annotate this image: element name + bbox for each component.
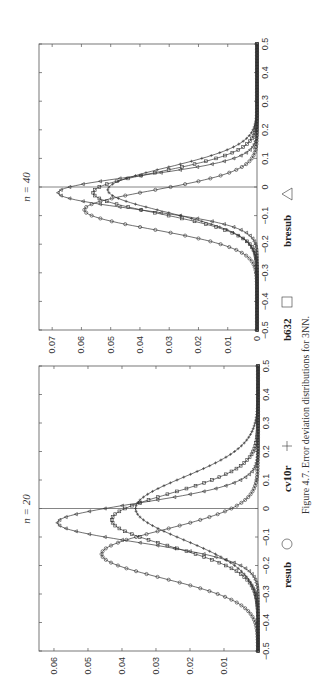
legend-square-icon xyxy=(282,297,292,307)
x-tick-label: −0.4 xyxy=(260,293,270,311)
y-tick-label: 0.05 xyxy=(106,336,116,354)
y-tick-label: 0.01 xyxy=(223,336,233,354)
y-tick-label: 0.05 xyxy=(83,657,93,675)
x-tick-label: 0.4 xyxy=(261,388,271,401)
panel-n40: −0.5−0.4−0.3−0.2−0.100.10.20.30.40.500.0… xyxy=(39,38,270,354)
y-tick-label: 0.01 xyxy=(219,657,229,675)
y-tick-label: 0.04 xyxy=(117,657,127,675)
y-tick-label: 0.06 xyxy=(49,657,59,675)
figure-caption: Figure 4.7. Error deviation distribution… xyxy=(300,316,311,514)
y-tick-label: 0.03 xyxy=(151,657,161,675)
x-tick-label: −0.4 xyxy=(261,614,271,632)
x-tick-label: 0.3 xyxy=(261,417,271,430)
x-tick-label: −0.1 xyxy=(261,528,271,546)
x-tick-label: 0.2 xyxy=(260,124,270,137)
x-tick-label: 0.3 xyxy=(260,95,270,108)
x-tick-label: 0.4 xyxy=(260,66,270,79)
x-tick-label: −0.1 xyxy=(260,207,270,225)
legend-triangle-icon xyxy=(282,188,292,200)
x-tick-label: −0.3 xyxy=(260,264,270,282)
x-tick-label: 0.5 xyxy=(261,360,271,373)
x-tick-label: 0.1 xyxy=(260,152,270,165)
x-tick-label: 0 xyxy=(260,184,270,189)
y-tick-label: 0.07 xyxy=(47,336,57,354)
x-tick-label: −0.3 xyxy=(261,585,271,603)
x-tick-label: 0.1 xyxy=(261,474,271,487)
x-tick-label: −0.5 xyxy=(261,642,271,660)
y-tick-label: 0 xyxy=(252,336,262,341)
x-tick-label: 0.2 xyxy=(261,445,271,458)
legend-cv10r-label: cv10r xyxy=(281,466,293,492)
y-tick-label: 0.02 xyxy=(185,657,195,675)
x-tick-label: −0.2 xyxy=(261,557,271,575)
x-tick-label: 0 xyxy=(261,506,271,511)
legend-resub-label: resub xyxy=(281,562,293,588)
legend-b632-label: b632 xyxy=(281,318,293,341)
figure: −0.5−0.4−0.3−0.2−0.100.10.20.30.40.500.0… xyxy=(0,0,316,688)
y-tick-label: 0.06 xyxy=(76,336,86,354)
legend-bresub-label: bresub xyxy=(281,215,293,247)
y-tick-label: 0.03 xyxy=(164,336,174,354)
legend-circle-icon xyxy=(282,539,292,549)
y-tick-label: 0.02 xyxy=(193,336,203,354)
panel-n20-title: n = 20 xyxy=(20,494,32,524)
panel-n20: −0.5−0.4−0.3−0.2−0.100.10.20.30.40.50.01… xyxy=(39,360,271,675)
y-tick-label: 0.04 xyxy=(135,336,145,354)
x-tick-label: 0.5 xyxy=(260,38,270,51)
legend: resub cv10r b632 bresub xyxy=(281,188,293,588)
legend-plus-icon xyxy=(282,441,292,451)
panel-n40-title: n = 40 xyxy=(20,172,32,202)
x-tick-label: −0.2 xyxy=(260,235,270,253)
